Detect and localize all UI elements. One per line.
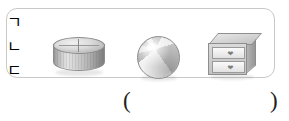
object-box: ㄱ ㄴ ㄷ ❤ <box>6 8 275 78</box>
item-label-giyeok: ㄱ <box>7 9 274 33</box>
sphere-object <box>136 35 182 81</box>
heart-knob-icon: ❤ <box>227 51 234 58</box>
answer-close-paren: ) <box>270 88 278 114</box>
answer-open-paren: ( <box>123 88 131 114</box>
answer-blank[interactable]: ( ) <box>118 88 283 114</box>
cylinder-groove-horizontal <box>59 45 99 46</box>
sphere-body <box>137 36 180 79</box>
cabinet-drawer-lower: ❤ <box>212 61 245 73</box>
cylinder-groove-vertical <box>78 39 79 52</box>
heart-knob-icon: ❤ <box>227 65 234 72</box>
cabinet-object: ❤ ❤ <box>208 33 260 81</box>
worksheet-page: ㄱ ㄴ ㄷ ❤ <box>0 0 289 121</box>
sphere-highlight <box>147 43 158 51</box>
cabinet-drawer-upper: ❤ <box>212 47 245 59</box>
cylinder-object <box>51 36 107 78</box>
sphere-shading <box>138 37 179 78</box>
cabinet-front-panel: ❤ ❤ <box>208 43 247 75</box>
